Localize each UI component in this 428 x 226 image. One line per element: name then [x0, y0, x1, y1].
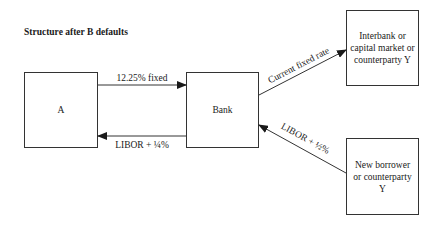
edge-bank-to-a: LIBOR + ¼% — [98, 136, 186, 150]
edge-bank-to-interbank: Current fixed rate — [259, 45, 346, 95]
edge-a-to-bank-label: 12.25% fixed — [116, 73, 167, 83]
edge-a-to-bank: 12.25% fixed — [98, 73, 186, 85]
edge-bank-to-a-label: LIBOR + ¼% — [115, 140, 169, 150]
edges-layer: 12.25% fixed LIBOR + ¼% Current fixed ra… — [0, 0, 428, 226]
edge-bank-to-interbank-label: Current fixed rate — [266, 45, 331, 85]
edge-new-borrower-to-bank: LIBOR + ½% — [259, 121, 346, 173]
